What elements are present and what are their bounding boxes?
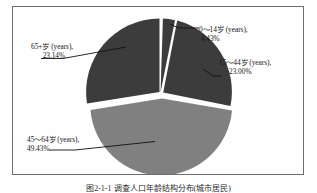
- pie-label-15-44: 15～44岁 (years), 23.00%: [219, 58, 271, 76]
- pie-label-45-64-percent: 49.43%: [27, 144, 80, 153]
- chart-plot-area: 0～14岁 (years), 4.43% 15～44岁 (years), 23.…: [12, 6, 304, 175]
- pie-slice-45-64: [91, 99, 233, 176]
- pie-label-0-14-text: 0～14岁 (years),: [199, 25, 248, 34]
- figure-root: 0～14岁 (years), 4.43% 15～44岁 (years), 23.…: [0, 0, 317, 193]
- pie-label-15-44-percent: 23.00%: [219, 67, 271, 76]
- pie-label-65plus-text: 65+岁 (years),: [31, 42, 73, 51]
- figure-caption: 图2-1-1 调查人口年龄结构分布(城市居民): [0, 183, 317, 193]
- pie-label-15-44-text: 15～44岁 (years),: [219, 58, 271, 67]
- pie-label-0-14: 0～14岁 (years), 4.43%: [199, 25, 248, 43]
- pie-label-65plus-percent: 23.14%: [31, 51, 73, 60]
- pie-label-0-14-percent: 4.43%: [199, 34, 248, 43]
- pie-label-65plus: 65+岁 (years), 23.14%: [31, 42, 73, 60]
- pie-slice-65plus: [86, 19, 159, 104]
- pie-label-45-64: 45～64岁 (years), 49.43%: [27, 135, 80, 153]
- pie-label-45-64-text: 45～64岁 (years),: [27, 135, 80, 144]
